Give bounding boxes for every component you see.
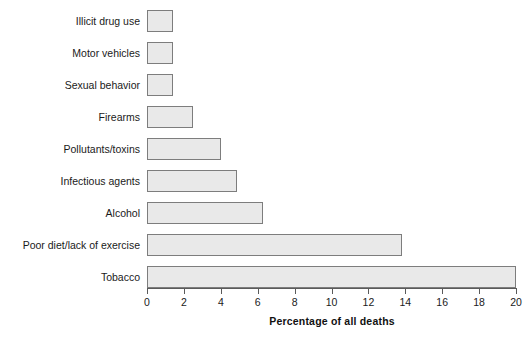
bar-row	[147, 234, 516, 256]
x-axis-tick-label: 6	[238, 296, 278, 308]
bar-row	[147, 266, 516, 288]
category-label: Poor diet/lack of exercise	[0, 234, 140, 256]
category-label: Motor vehicles	[0, 42, 140, 64]
bar	[147, 42, 173, 64]
x-axis-tick-label: 12	[348, 296, 388, 308]
x-axis-title: Percentage of all deaths	[147, 315, 517, 327]
bar-row	[147, 106, 516, 128]
x-axis-tick	[295, 288, 296, 294]
category-label: Firearms	[0, 106, 140, 128]
x-axis-tick-label: 2	[164, 296, 204, 308]
category-label: Sexual behavior	[0, 74, 140, 96]
bar-row	[147, 10, 516, 32]
bar-row	[147, 138, 516, 160]
x-axis-tick-label: 0	[127, 296, 167, 308]
x-axis-tick	[332, 288, 333, 294]
bar	[147, 74, 173, 96]
category-label: Illicit drug use	[0, 10, 140, 32]
x-axis-tick	[516, 288, 517, 294]
x-axis-tick	[368, 288, 369, 294]
x-axis-tick	[442, 288, 443, 294]
bar	[147, 202, 263, 224]
category-label: Tobacco	[0, 266, 140, 288]
bar-row	[147, 42, 516, 64]
category-label: Pollutants/toxins	[0, 138, 140, 160]
x-axis-tick-label: 8	[275, 296, 315, 308]
bar	[147, 266, 516, 288]
x-axis-tick	[147, 288, 148, 294]
bar	[147, 106, 193, 128]
plot-area	[147, 14, 516, 288]
bar-row	[147, 74, 516, 96]
x-axis-tick	[479, 288, 480, 294]
x-axis-tick-label: 16	[422, 296, 462, 308]
bar	[147, 170, 237, 192]
x-axis-tick-label: 18	[459, 296, 499, 308]
category-label-column: Illicit drug useMotor vehiclesSexual beh…	[0, 14, 140, 288]
category-label: Alcohol	[0, 202, 140, 224]
x-axis-tick	[405, 288, 406, 294]
bar-row	[147, 202, 516, 224]
bar	[147, 138, 221, 160]
x-axis-tick	[184, 288, 185, 294]
category-label: Infectious agents	[0, 170, 140, 192]
bar-chart: Illicit drug useMotor vehiclesSexual beh…	[0, 0, 527, 341]
bar	[147, 10, 173, 32]
x-axis-tick-label: 20	[496, 296, 527, 308]
x-axis-tick-label: 10	[312, 296, 352, 308]
bar	[147, 234, 402, 256]
x-axis-tick	[258, 288, 259, 294]
x-axis-tick-label: 4	[201, 296, 241, 308]
x-axis-tick-label: 14	[385, 296, 425, 308]
x-axis-tick	[221, 288, 222, 294]
bar-row	[147, 170, 516, 192]
